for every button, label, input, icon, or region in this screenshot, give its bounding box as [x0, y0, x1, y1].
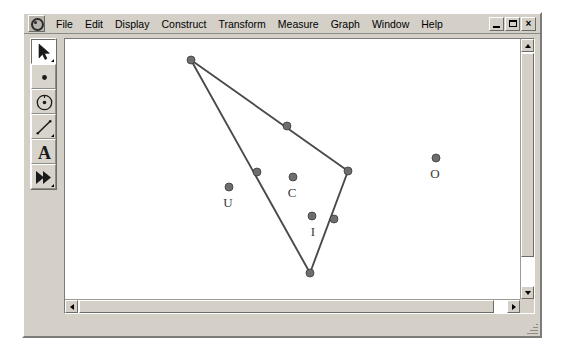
- scroll-right-button[interactable]: [507, 300, 520, 313]
- scroll-right-arrow-icon: [512, 304, 516, 310]
- restore-button[interactable]: [505, 17, 520, 31]
- resize-grip[interactable]: [525, 321, 538, 334]
- scroll-up-button[interactable]: [521, 39, 534, 52]
- compass-circle-tool[interactable]: [31, 89, 56, 114]
- close-icon: ×: [522, 18, 535, 30]
- sketchpad-app-icon[interactable]: [28, 15, 45, 32]
- scroll-up-arrow-icon: [525, 44, 531, 48]
- status-strip: [24, 318, 540, 336]
- vertex-right[interactable]: [344, 167, 352, 175]
- straightedge-tool[interactable]: [31, 114, 56, 139]
- scroll-down-arrow-icon: [525, 291, 531, 295]
- sketch-canvas[interactable]: UCIO: [65, 39, 520, 299]
- menu-item-transform[interactable]: Transform: [212, 16, 271, 32]
- selection-arrow-tool[interactable]: [31, 39, 56, 64]
- restore-icon: [509, 20, 517, 27]
- triangle[interactable]: [191, 60, 348, 273]
- scroll-left-arrow-icon: [70, 304, 74, 310]
- point-icon: [32, 65, 57, 90]
- tool-popup-indicator: [51, 59, 54, 62]
- tool-popup-indicator: [51, 134, 54, 137]
- midpoint-left[interactable]: [253, 168, 261, 176]
- point-i-label: I: [311, 224, 315, 239]
- point-c-label: C: [288, 185, 297, 200]
- midpoint-top-right[interactable]: [283, 122, 291, 130]
- point-u[interactable]: [225, 183, 233, 191]
- point-u-label: U: [223, 195, 233, 210]
- menu-item-window[interactable]: Window: [366, 16, 415, 32]
- minimize-icon: [493, 26, 500, 28]
- circle-icon: [32, 90, 57, 115]
- menu-item-help[interactable]: Help: [415, 16, 449, 32]
- minimize-button[interactable]: [489, 17, 504, 31]
- close-button[interactable]: ×: [521, 17, 536, 31]
- app-icon-dot: [34, 21, 37, 24]
- application-window: File Edit Display Construct Transform Me…: [22, 12, 542, 338]
- menu-item-measure[interactable]: Measure: [272, 16, 325, 32]
- point-c[interactable]: [289, 173, 297, 181]
- scroll-left-button[interactable]: [65, 300, 78, 313]
- work-area: A UCIO: [24, 34, 540, 336]
- vertical-scroll-thumb[interactable]: [521, 53, 534, 257]
- point-o[interactable]: [432, 154, 440, 162]
- point-tool[interactable]: [31, 64, 56, 89]
- scrollbar-corner: [520, 299, 534, 313]
- geometry-drawing: UCIO: [65, 39, 520, 293]
- menu-item-edit[interactable]: Edit: [79, 16, 109, 32]
- horizontal-scroll-thumb[interactable]: [79, 300, 494, 313]
- custom-transform-tool[interactable]: [31, 164, 56, 189]
- vertex-top[interactable]: [187, 56, 195, 64]
- tool-palette: A: [30, 38, 57, 190]
- sketch-window: UCIO: [64, 38, 535, 314]
- point-i[interactable]: [308, 212, 316, 220]
- point-o-label: O: [430, 166, 439, 181]
- menu-item-graph[interactable]: Graph: [325, 16, 366, 32]
- svg-text:A: A: [38, 143, 51, 163]
- text-tool[interactable]: A: [31, 139, 56, 164]
- menu-item-display[interactable]: Display: [109, 16, 155, 32]
- app-icon-ring: [31, 18, 44, 31]
- vertical-scrollbar[interactable]: [520, 39, 534, 299]
- vertex-bottom[interactable]: [306, 269, 314, 277]
- scroll-down-button[interactable]: [521, 286, 534, 299]
- window-controls: ×: [489, 17, 540, 31]
- menu-item-file[interactable]: File: [50, 16, 79, 32]
- tool-popup-indicator: [51, 184, 54, 187]
- letter-a-icon: A: [32, 140, 57, 165]
- horizontal-scrollbar[interactable]: [65, 299, 520, 313]
- midpoint-bottom-right[interactable]: [330, 215, 338, 223]
- menu-bar: File Edit Display Construct Transform Me…: [24, 14, 540, 34]
- menu-item-construct[interactable]: Construct: [155, 16, 212, 32]
